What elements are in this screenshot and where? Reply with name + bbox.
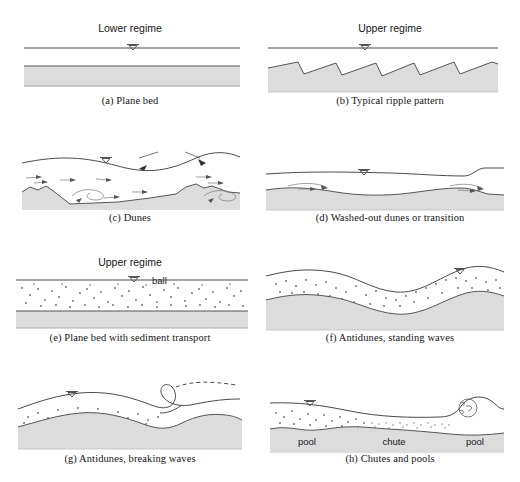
panel-f-caption: (f) Antidunes, standing waves <box>260 332 520 343</box>
water-surface-line <box>266 266 504 292</box>
panel-e-regime-label: Upper regime <box>0 256 260 268</box>
suspended-sediment-dots <box>21 283 244 308</box>
bedform-regimes-figure: Lower regime (a) Plane bed Upper regime <box>0 0 520 482</box>
panel-e-caption: (e) Plane bed with sediment transport <box>0 332 260 343</box>
bed-fill <box>24 66 240 86</box>
panel-f: (f) Antidunes, standing waves <box>260 248 520 355</box>
panel-a-caption: (a) Plane bed <box>0 95 260 106</box>
bed-fill <box>268 62 498 92</box>
water-surface-line <box>22 153 240 171</box>
bed-fill <box>22 184 240 210</box>
ball-leader-lines <box>139 152 206 171</box>
water-surface-triangle-icon <box>359 45 371 51</box>
panel-c-caption: (c) Dunes <box>0 212 260 223</box>
panel-c: ball (c) Dunes <box>0 130 260 235</box>
bed-fill <box>16 311 248 328</box>
suspended-sediment-dots <box>275 410 365 428</box>
panel-d: (d) Washed-out dunes or transition <box>260 130 520 235</box>
breaking-antidune-dashed-line <box>176 382 236 387</box>
panel-b-diagram <box>260 0 520 100</box>
panel-a: Lower regime (a) Plane bed <box>0 0 260 118</box>
water-surface-line <box>270 403 440 418</box>
water-surface-triangle-icon <box>128 277 140 283</box>
panel-f-diagram <box>260 248 520 338</box>
breaking-wave-curl <box>161 385 240 407</box>
panel-b: Upper regime (b) Typical ripple pattern <box>260 0 520 118</box>
panel-h-caption: (h) Chutes and pools <box>260 453 520 464</box>
roller-curl-marks <box>459 399 477 417</box>
panel-a-diagram <box>0 0 260 100</box>
panel-d-caption: (d) Washed-out dunes or transition <box>260 212 520 223</box>
panel-g-caption: (g) Antidunes, breaking waves <box>0 453 260 464</box>
panel-h: pool chute pool (h) Chutes and pools <box>260 365 520 482</box>
bed-label-pool-left: pool <box>298 436 316 447</box>
water-surface-line <box>266 168 504 176</box>
panel-b-caption: (b) Typical ripple pattern <box>260 95 520 106</box>
panel-g: Breaking antidune (g) Antidunes, breakin… <box>0 365 260 482</box>
bed-label-pool-right: pool <box>466 436 484 447</box>
bed-fill <box>266 188 504 210</box>
bed-label-chute: chute <box>382 436 405 447</box>
bed-fill <box>266 291 504 330</box>
panel-e: Upper regime <box>0 248 260 355</box>
panel-h-diagram: pool chute pool <box>260 365 520 460</box>
water-surface-triangle-icon <box>127 45 139 51</box>
chute-bedload-dots <box>371 422 450 429</box>
panel-g-diagram <box>0 365 260 460</box>
panel-a-regime-label: Lower regime <box>0 22 260 34</box>
panel-c-diagram <box>0 130 260 215</box>
panel-b-regime-label: Upper regime <box>260 22 520 34</box>
water-surface-line <box>18 392 168 409</box>
panel-d-diagram <box>260 130 520 215</box>
